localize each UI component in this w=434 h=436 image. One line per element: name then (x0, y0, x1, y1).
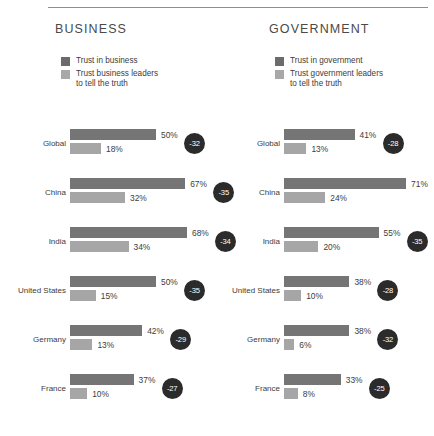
bar-trust-leaders (284, 339, 294, 350)
bar-line: 33% (284, 374, 363, 385)
bar-trust-leaders (284, 192, 325, 203)
bar-value-label: 41% (360, 130, 377, 140)
bar-value-label: 55% (384, 228, 401, 238)
bar-row: Global50%18%-32 (0, 124, 217, 173)
trust-gap-badge: -25 (369, 378, 390, 399)
bar-group: 50%18% (70, 129, 178, 157)
bar-row: United States38%10%-28 (217, 271, 434, 320)
bar-row: Germany38%6%-32 (217, 320, 434, 369)
trust-gap-badge: -35 (184, 280, 205, 301)
legend-government: Trust in government Trust government lea… (275, 56, 383, 91)
bar-row: India68%34%-34 (0, 222, 217, 271)
bar-value-label: 50% (161, 130, 178, 140)
bar-trust-institution (284, 129, 355, 140)
legend-item: Trust business leaders to tell the truth (61, 69, 158, 88)
bar-trust-institution (70, 227, 187, 238)
bar-row: China71%24%-47 (217, 173, 434, 222)
bar-line: 10% (284, 290, 371, 301)
bar-group: 71%24% (284, 178, 428, 206)
panel-title-business: BUSINESS (55, 22, 127, 36)
legend-item: Trust government leaders to tell the tru… (275, 69, 383, 88)
trust-gap-badge: -28 (383, 133, 404, 154)
trust-gap-badge: -35 (407, 231, 428, 252)
bar-row-label: Germany (0, 335, 66, 344)
bar-line: 32% (70, 192, 207, 203)
legend-swatch-dark-icon (61, 57, 70, 66)
bar-value-label: 33% (346, 375, 363, 385)
legend-label: Trust government leaders to tell the tru… (290, 69, 383, 88)
bar-group: 38%6% (284, 325, 371, 353)
bar-row: China67%32%-35 (0, 173, 217, 222)
bar-group: 33%8% (284, 374, 363, 402)
bar-trust-institution (70, 325, 142, 336)
bar-line: 38% (284, 276, 371, 287)
bar-line: 41% (284, 129, 376, 140)
bar-line: 68% (70, 227, 209, 238)
bar-line: 15% (70, 290, 178, 301)
bar-rows-government: Global41%13%-28China71%24%-47India55%20%… (217, 124, 434, 418)
bar-group: 67%32% (70, 178, 207, 206)
bar-line: 67% (70, 178, 207, 189)
bar-line: 10% (70, 388, 155, 399)
bar-trust-institution (284, 374, 341, 385)
bar-trust-leaders (284, 143, 306, 154)
bar-trust-institution (70, 129, 156, 140)
bar-line: 20% (284, 241, 400, 252)
panel-government: GOVERNMENT Trust in government Trust gov… (217, 0, 434, 436)
bar-value-label: 32% (130, 193, 147, 203)
bar-row-label: United States (217, 286, 280, 295)
bar-trust-leaders (70, 388, 87, 399)
bar-line: 6% (284, 339, 371, 350)
bar-trust-leaders (284, 290, 301, 301)
bar-value-label: 24% (330, 193, 347, 203)
bar-row: Global41%13%-28 (217, 124, 434, 173)
legend-item: Trust in business (61, 56, 158, 66)
legend-label: Trust in business (76, 56, 138, 66)
bar-line: 55% (284, 227, 400, 238)
bar-row-label: Global (0, 139, 66, 148)
bar-row-label: India (217, 237, 280, 246)
bar-value-label: 71% (411, 179, 428, 189)
bar-line: 24% (284, 192, 428, 203)
bar-value-label: 38% (354, 277, 371, 287)
bar-row: United States50%15%-35 (0, 271, 217, 320)
bar-trust-institution (284, 227, 379, 238)
bar-row: Germany42%13%-29 (0, 320, 217, 369)
bar-trust-leaders (70, 241, 129, 252)
bar-value-label: 10% (92, 389, 109, 399)
bar-value-label: 13% (311, 144, 328, 154)
bar-row: France37%10%-27 (0, 369, 217, 418)
trust-gap-badge: -27 (162, 378, 183, 399)
bar-line: 13% (70, 339, 164, 350)
bar-trust-leaders (284, 241, 318, 252)
bar-value-label: 42% (147, 326, 164, 336)
bar-row-label: China (217, 188, 280, 197)
bar-rows-business: Global50%18%-32China67%32%-35India68%34%… (0, 124, 217, 418)
panel-business: BUSINESS Trust in business Trust busines… (0, 0, 217, 436)
bar-value-label: 67% (190, 179, 207, 189)
bar-group: 41%13% (284, 129, 376, 157)
bar-row-label: France (0, 384, 66, 393)
chart-panels: BUSINESS Trust in business Trust busines… (0, 0, 434, 436)
bar-trust-leaders (70, 192, 125, 203)
legend-item: Trust in government (275, 56, 383, 66)
bar-line: 50% (70, 276, 178, 287)
legend-swatch-dark-icon (275, 57, 284, 66)
bar-group: 50%15% (70, 276, 178, 304)
bar-line: 71% (284, 178, 428, 189)
bar-trust-leaders (70, 290, 96, 301)
bar-value-label: 37% (139, 375, 156, 385)
bar-row-label: China (0, 188, 66, 197)
bar-line: 38% (284, 325, 371, 336)
bar-row-label: Global (217, 139, 280, 148)
trust-gap-badge: -32 (377, 329, 398, 350)
bar-line: 42% (70, 325, 164, 336)
bar-value-label: 20% (323, 242, 340, 252)
bar-line: 13% (284, 143, 376, 154)
bar-line: 37% (70, 374, 155, 385)
legend-swatch-light-icon (275, 70, 284, 79)
legend-label: Trust in government (290, 56, 363, 66)
bar-trust-leaders (70, 339, 92, 350)
bar-value-label: 34% (134, 242, 151, 252)
bar-row-label: Germany (217, 335, 280, 344)
